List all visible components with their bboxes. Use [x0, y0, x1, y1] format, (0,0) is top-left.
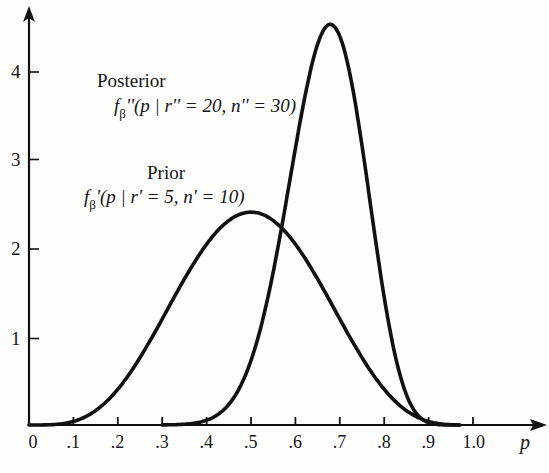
posterior-formula: fβ''(p | r'' = 20, n'' = 30): [114, 96, 296, 115]
x-tick-label: 1.0: [463, 433, 486, 451]
prior-subscript: β: [89, 197, 96, 212]
prior-formula-rest: '(p | r' = 5, n' = 10): [96, 186, 245, 207]
x-tick-label: .8: [377, 433, 391, 451]
prior-formula: fβ'(p | r' = 5, n' = 10): [84, 187, 245, 206]
x-tick-label: .7: [333, 433, 347, 451]
prior-title: Prior: [147, 163, 185, 182]
x-tick-label: .4: [200, 433, 214, 451]
chart-canvas: [0, 0, 549, 473]
x-axis-variable-label: p: [520, 432, 530, 452]
x-tick-label: .5: [244, 433, 258, 451]
x-tick-label: .3: [155, 433, 169, 451]
x-tick-label: .1: [66, 433, 80, 451]
prior-curve: [29, 212, 460, 425]
posterior-formula-rest: ''(p | r'' = 20, n'' = 30): [126, 95, 296, 116]
x-tick-label: .9: [422, 433, 436, 451]
y-tick-label: 2: [11, 239, 21, 258]
x-tick-label: .6: [288, 433, 302, 451]
y-tick-label: 3: [11, 150, 21, 169]
posterior-title: Posterior: [97, 71, 166, 90]
x-tick-label: .2: [111, 433, 125, 451]
y-tick-label: 4: [11, 62, 21, 81]
posterior-curve: [162, 24, 460, 425]
posterior-subscript: β: [119, 106, 126, 121]
y-tick-label: 1: [11, 329, 21, 348]
x-tick-label: 0: [29, 433, 38, 451]
